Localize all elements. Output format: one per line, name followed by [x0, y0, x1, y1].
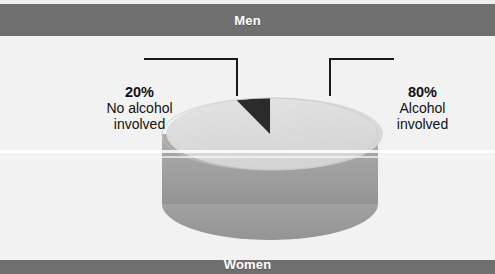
- chart-page: Men: [0, 0, 495, 274]
- chart-title-bar-women: Women: [0, 260, 495, 274]
- pie-chart: 20% No alcohol involved 80% Alcohol invo…: [0, 36, 495, 260]
- callout-no-alcohol-involved: 20% No alcohol involved: [62, 84, 217, 133]
- next-page-title: Women: [224, 260, 272, 271]
- callout-left-line1: No alcohol: [62, 101, 217, 117]
- callout-right-line1: Alcohol: [350, 101, 495, 117]
- chart-title-bar-men: Men: [0, 4, 495, 36]
- callout-alcohol-involved: 80% Alcohol involved: [350, 84, 495, 133]
- callout-left-percent: 20%: [62, 84, 217, 100]
- page-title: Men: [234, 14, 261, 27]
- callout-left-line2: involved: [62, 117, 217, 133]
- callout-right-line2: involved: [350, 117, 495, 133]
- callout-right-percent: 80%: [350, 84, 495, 100]
- pie-chart-svg: [0, 36, 495, 260]
